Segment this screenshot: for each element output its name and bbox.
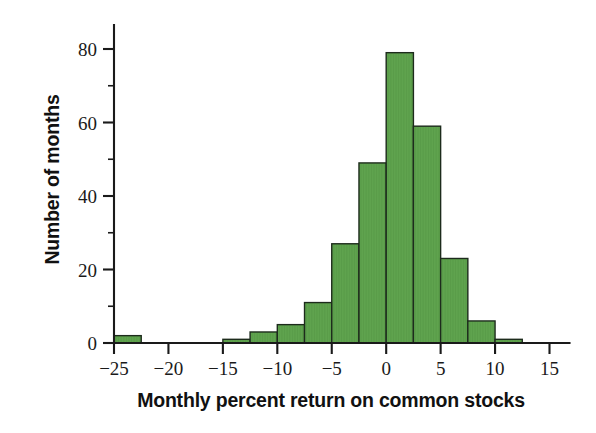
- x-tick-label: −25: [99, 358, 129, 379]
- histogram-bar: [468, 321, 495, 343]
- y-tick-label: 20: [78, 260, 97, 281]
- y-tick-label: 0: [88, 333, 98, 354]
- x-tick-label: 15: [540, 358, 559, 379]
- plot-area: −25−20−15−10−5051015020406080: [0, 0, 596, 433]
- x-tick-label: 10: [486, 358, 505, 379]
- x-tick-label: −5: [322, 358, 342, 379]
- x-tick-label: 0: [381, 358, 391, 379]
- histogram-bar: [114, 336, 141, 343]
- histogram-bar: [386, 53, 413, 343]
- histogram-figure: Number of months −25−20−15−10−5051015020…: [0, 0, 596, 433]
- y-tick-label: 80: [78, 39, 97, 60]
- histogram-bar: [250, 332, 277, 343]
- y-tick-label: 60: [78, 113, 97, 134]
- x-axis-title: Monthly percent return on common stocks: [96, 389, 566, 412]
- bars-group: [114, 53, 522, 343]
- y-tick-label: 40: [78, 186, 97, 207]
- x-tick-label: −20: [154, 358, 184, 379]
- histogram-bar: [332, 244, 359, 343]
- histogram-bar: [277, 325, 304, 343]
- histogram-bar: [305, 303, 332, 343]
- histogram-bar: [441, 258, 468, 343]
- x-tick-label: 5: [436, 358, 446, 379]
- x-tick-label: −10: [262, 358, 292, 379]
- x-tick-label: −15: [208, 358, 238, 379]
- histogram-bar: [359, 163, 386, 343]
- histogram-bar: [413, 126, 440, 343]
